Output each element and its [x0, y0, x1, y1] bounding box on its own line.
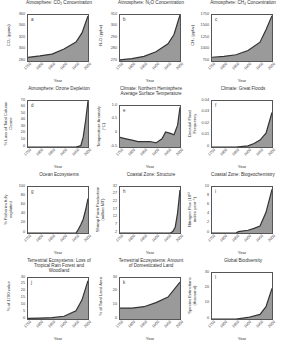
y-tick-label: 30 — [103, 275, 117, 279]
y-tick-label: 360 — [11, 12, 25, 16]
x-tick-label: 2000 — [175, 234, 184, 243]
plot-area: h — [119, 186, 181, 234]
x-tick-label: 2000 — [267, 62, 276, 71]
x-tick-label: 2000 — [83, 320, 92, 329]
y-tick-label: 70 — [11, 98, 25, 102]
area-series — [120, 187, 180, 233]
plot-area: d — [27, 100, 89, 148]
x-tick-label: 1750 — [115, 320, 124, 329]
x-tick-label: 1800 — [127, 320, 136, 329]
plot-area: k — [119, 277, 181, 320]
x-axis-label: Year — [119, 336, 181, 341]
y-tick-label: 60 — [11, 104, 25, 108]
chart-panel-d: Atmosphere: Ozone Depletion% Loss of Tot… — [0, 86, 94, 173]
x-tick-label: 1950 — [255, 148, 264, 157]
x-tick-label: 1900 — [59, 62, 68, 71]
plot-area: j — [27, 277, 89, 320]
x-tick-label: 1900 — [59, 148, 68, 157]
y-tick-label: 750 — [195, 58, 209, 62]
x-tick-label: 1750 — [23, 148, 32, 157]
x-tick-label: 1850 — [139, 320, 148, 329]
chart-panel-a: Atmosphere: CO₂ ConcentrationCO₂ (ppmv)a… — [0, 0, 94, 87]
x-tick-label: 1950 — [163, 62, 172, 71]
area-series — [28, 187, 88, 233]
x-tick-label: 1750 — [207, 234, 216, 243]
x-tick-label: 1750 — [23, 62, 32, 71]
y-tick-label: 32 — [103, 184, 117, 188]
y-tick-label: 7 — [103, 222, 117, 226]
y-tick-label: 10 — [103, 302, 117, 306]
x-tick-label: 1850 — [139, 62, 148, 71]
x-axis-label: Year — [27, 78, 89, 83]
y-tick-label: -0.5 — [103, 144, 117, 148]
y-tick-label: 20 — [11, 130, 25, 134]
y-axis-label: % of Total Land Area — [99, 275, 104, 316]
y-tick-label: 17 — [103, 207, 117, 211]
x-tick-label: 1800 — [35, 320, 44, 329]
y-tick-label: 27 — [103, 191, 117, 195]
x-tick-label: 1900 — [151, 148, 160, 157]
panel-title: Atmosphere: CH₄ Concentration — [210, 0, 276, 5]
panel-title: Atmosphere: Ozone Depletion — [26, 86, 92, 91]
y-tick-label: 1000 — [195, 46, 209, 50]
y-tick-label: 20 — [11, 288, 25, 292]
area-series — [212, 273, 272, 319]
y-tick-label: 15 — [11, 295, 25, 299]
panel-title: Climate: Great Floods — [210, 86, 276, 91]
y-tick-label: 2 — [103, 230, 117, 234]
y-tick-label: 0 — [103, 316, 117, 320]
area-series — [120, 278, 180, 319]
panel-title: Atmosphere: N₂O Concentration — [118, 0, 184, 5]
y-tick-label: 8 — [195, 193, 209, 197]
x-tick-label: 1850 — [139, 234, 148, 243]
plot-area: l — [211, 272, 273, 320]
x-tick-label: 1800 — [35, 62, 44, 71]
x-tick-label: 2000 — [267, 320, 276, 329]
y-tick-label: 10 — [195, 184, 209, 188]
x-tick-label: 1850 — [47, 234, 56, 243]
y-tick-label: 300 — [11, 46, 25, 50]
x-axis-label: Year — [211, 78, 273, 83]
chart-panel-k: Terrestrial Ecosystems: Amount of Domest… — [92, 258, 186, 345]
y-tick-label: 25 — [11, 281, 25, 285]
y-tick-label: 30 — [11, 124, 25, 128]
x-tick-label: 2000 — [267, 148, 276, 157]
plot-area: b — [119, 14, 181, 62]
x-tick-label: 1950 — [255, 234, 264, 243]
y-tick-label: 0.02 — [195, 121, 209, 125]
y-tick-label: 1750 — [195, 12, 209, 16]
x-tick-label: 1850 — [231, 148, 240, 157]
y-tick-label: 1250 — [195, 35, 209, 39]
y-tick-label: 1500 — [195, 23, 209, 27]
y-tick-label: 40 — [11, 117, 25, 121]
y-tick-label: 0 — [103, 130, 117, 134]
area-series — [212, 15, 272, 61]
x-tick-label: 1750 — [115, 234, 124, 243]
figure-grid: Atmosphere: CO₂ ConcentrationCO₂ (ppmv)a… — [0, 0, 282, 348]
x-tick-label: 1800 — [219, 62, 228, 71]
x-tick-label: 1900 — [243, 234, 252, 243]
x-tick-label: 1800 — [127, 62, 136, 71]
y-tick-label: 300 — [103, 23, 117, 27]
panel-title: Atmosphere: CO₂ Concentration — [26, 0, 92, 5]
x-tick-label: 1800 — [219, 320, 228, 329]
x-tick-label: 1850 — [231, 320, 240, 329]
y-tick-label: 10 — [11, 302, 25, 306]
x-tick-label: 1850 — [139, 148, 148, 157]
x-tick-label: 2000 — [267, 234, 276, 243]
x-tick-label: 1850 — [47, 148, 56, 157]
y-tick-label: 0.5 — [103, 116, 117, 120]
y-tick-label: 40 — [11, 211, 25, 215]
plot-area: i — [211, 186, 273, 234]
area-series — [212, 187, 272, 233]
y-tick-label: 30 — [195, 270, 209, 274]
x-tick-label: 1750 — [207, 62, 216, 71]
x-tick-label: 1750 — [207, 320, 216, 329]
panel-title: Coastal Zone: Biogeochemistry — [210, 172, 276, 177]
x-tick-label: 1950 — [71, 320, 80, 329]
chart-panel-e: Climate: Northern Hemisphere Average Sur… — [92, 86, 186, 173]
x-tick-label: 1800 — [35, 234, 44, 243]
chart-panel-l: Global BiodiversitySpecies Extinctions (… — [184, 258, 278, 345]
x-tick-label: 1750 — [115, 148, 124, 157]
x-tick-label: 1800 — [219, 234, 228, 243]
